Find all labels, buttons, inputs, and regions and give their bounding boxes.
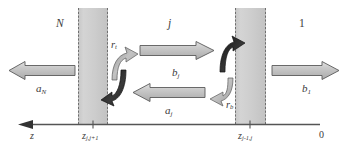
label-reflection-bottom: rb <box>226 100 233 111</box>
slab-left <box>78 8 108 124</box>
region-label-N: N <box>56 18 64 30</box>
tick-label-z-j-jplus1: zj,j+1 <box>82 131 99 142</box>
arrow-b-j <box>140 42 214 60</box>
tick-label-z-jminus1-j: zj-1,j <box>238 131 252 142</box>
layered-medium-diagram: N j 1 aN bj aj b1 rt rb z zj,j+1 zj-1,j … <box>0 0 347 148</box>
label-reflection-top: rt <box>111 40 117 51</box>
arrow-a-N <box>9 62 75 80</box>
label-r-b-sub: b <box>230 103 233 110</box>
label-b-1-sub: 1 <box>308 88 312 96</box>
label-a-N-sub: N <box>42 88 47 96</box>
axis-label-z: z <box>30 131 34 141</box>
label-b-j-sub: j <box>178 72 180 80</box>
tick-label-origin: 0 <box>319 130 324 140</box>
tick-2-sub: j-1,j <box>242 134 252 141</box>
label-amplitude-a-N: aN <box>36 83 46 96</box>
label-r-t-sub: t <box>115 43 117 50</box>
label-a-j-sub: j <box>171 110 173 118</box>
region-label-j: j <box>168 18 171 30</box>
arrow-a-j <box>133 84 205 102</box>
arrow-b-1 <box>272 62 339 80</box>
curved-arrow-r-t-link <box>108 70 113 80</box>
label-amplitude-a-j: aj <box>165 105 172 118</box>
slab-right <box>235 8 266 124</box>
region-label-1: 1 <box>299 18 305 30</box>
tick-1-sub: j,j+1 <box>86 134 99 141</box>
label-amplitude-b-1: b1 <box>302 83 311 96</box>
z-axis-line <box>18 120 320 129</box>
label-amplitude-b-j: bj <box>172 67 179 80</box>
